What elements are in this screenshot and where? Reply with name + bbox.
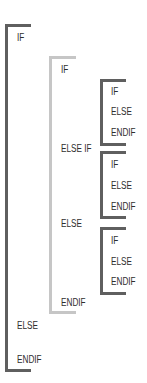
outer-endif-label: ENDIF [17,354,42,366]
middle-endif-label: ENDIF [61,297,86,309]
middle-elseif-label: ELSE IF [61,143,92,155]
middle-if-label: IF [61,64,68,76]
inner2-if-label: IF [111,159,118,171]
inner1-if-label: IF [111,86,118,98]
inner2-endif-label: ENDIF [111,201,136,213]
middle-if-bracket [49,56,76,314]
inner1-endif-label: ENDIF [111,127,136,139]
inner3-if-label: IF [111,235,118,247]
inner3-else-label: ELSE [111,256,132,268]
outer-if-label: IF [17,32,24,44]
inner1-else-label: ELSE [111,106,132,118]
middle-else-label: ELSE [61,218,82,230]
inner3-endif-label: ENDIF [111,276,136,288]
inner2-else-label: ELSE [111,180,132,192]
outer-else-label: ELSE [17,320,38,332]
